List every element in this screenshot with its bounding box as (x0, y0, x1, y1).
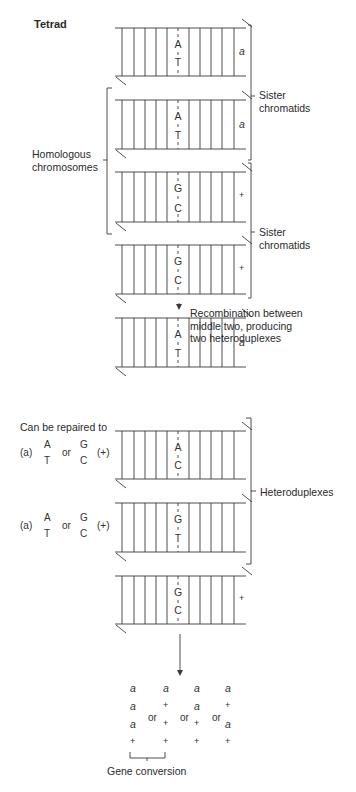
allele-label: a (239, 118, 245, 130)
or-label: or (62, 520, 71, 531)
heteroduplexes-label: Heteroduplexes (260, 486, 334, 499)
base-top: G (172, 182, 184, 194)
base-top: A (172, 110, 184, 122)
or-label: or (180, 712, 189, 723)
base-top: A (172, 38, 184, 50)
outcome-allele: a (130, 718, 136, 730)
homologous-chromosomes-label: Homologous chromosomes (32, 148, 98, 173)
sister-chromatids-top-label: Sister chromatids (259, 89, 310, 114)
outcome-allele: a (163, 682, 169, 694)
outcome-allele: a (194, 700, 200, 712)
gene-conversion-label: Gene conversion (107, 765, 186, 778)
label-line: Recombination between (190, 307, 303, 320)
outcome-allele: a (130, 700, 136, 712)
outcome-allele: + (163, 736, 168, 746)
outcome-allele: a (225, 718, 231, 730)
allele-label: a (239, 45, 245, 57)
can-be-repaired-label: Can be repaired to (20, 421, 107, 434)
option-base: C (80, 455, 87, 466)
label-line: two heteroduplexes (190, 332, 303, 345)
label-line: Homologous (32, 148, 98, 161)
sister-chromatids-bottom-label: Sister chromatids (259, 226, 310, 251)
label-line: chromatids (259, 239, 310, 252)
or-label: or (62, 447, 71, 458)
outcome-allele: + (194, 736, 199, 746)
recombination-label: Recombination between middle two, produc… (190, 307, 303, 345)
allele-label: + (239, 190, 244, 200)
outcome-allele: + (163, 700, 168, 710)
base-top: A (172, 441, 184, 453)
base-bottom: T (172, 56, 184, 68)
base-top: G (172, 586, 184, 598)
option-base: G (80, 439, 88, 450)
base-bottom: C (172, 274, 184, 286)
label-line: middle two, producing (190, 320, 303, 333)
base-bottom: T (172, 347, 184, 359)
gene-conversion-diagram: Tetrad Homologous chromosomes Sister chr… (0, 0, 356, 792)
option-base: G (80, 512, 88, 523)
label-line: chromosomes (32, 161, 98, 174)
outcome-allele: a (130, 682, 136, 694)
or-label: or (212, 712, 221, 723)
diagram-title: Tetrad (34, 18, 67, 31)
plus-allele-option: (+) (97, 447, 110, 458)
option-base: C (80, 528, 87, 539)
outcome-allele: a (194, 682, 200, 694)
option-base: T (44, 528, 50, 539)
plus-allele-option: (+) (97, 520, 110, 531)
base-bottom: T (172, 532, 184, 544)
allele-label: + (239, 263, 244, 273)
base-top: G (172, 513, 184, 525)
label-line: Sister (259, 226, 310, 239)
outcome-allele: + (194, 718, 199, 728)
outcome-allele: a (225, 682, 231, 694)
outcome-allele: + (225, 700, 230, 710)
base-top: A (172, 328, 184, 340)
base-top: G (172, 255, 184, 267)
or-label: or (148, 712, 157, 723)
option-base: T (44, 455, 50, 466)
outcome-allele: + (225, 736, 230, 746)
base-bottom: C (172, 459, 184, 471)
allele-a-option: (a) (20, 520, 32, 531)
allele-label: a (239, 336, 245, 348)
base-bottom: C (172, 202, 184, 214)
base-bottom: T (172, 129, 184, 141)
allele-a-option: (a) (20, 447, 32, 458)
allele-label: + (239, 593, 244, 603)
option-base: A (44, 439, 51, 450)
label-line: Sister (259, 89, 310, 102)
base-bottom: C (172, 604, 184, 616)
label-line: chromatids (259, 102, 310, 115)
outcome-allele: + (163, 718, 168, 728)
option-base: A (44, 512, 51, 523)
outcome-allele: + (130, 736, 135, 746)
